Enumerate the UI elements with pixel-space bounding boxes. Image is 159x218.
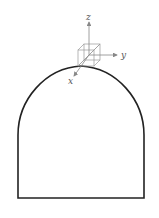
x-axis-label: x	[68, 76, 73, 86]
x-axis	[74, 55, 89, 76]
tunnel-outline	[18, 66, 144, 198]
z-axis-label: z	[85, 12, 91, 22]
y-axis-label: y	[120, 50, 127, 60]
tunnel-diagram: z y x	[0, 0, 159, 218]
